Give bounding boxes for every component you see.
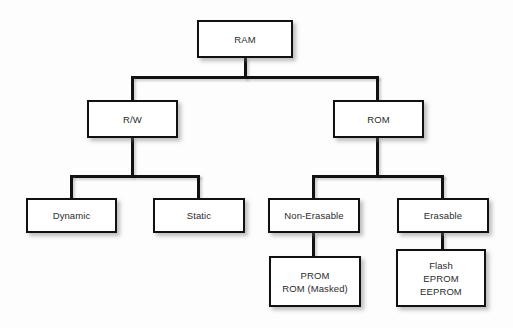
node-label-rom: ROM	[367, 113, 389, 126]
node-dynamic[interactable]: Dynamic	[26, 198, 117, 233]
connector-rom-stem	[376, 138, 379, 177]
connector-rw-to-sta-drop	[197, 175, 200, 199]
connector-rw-to-dyn-drop	[70, 175, 73, 199]
node-label-erasable: Erasable	[424, 209, 462, 222]
connector-ram-to-rw-drop	[131, 76, 134, 101]
node-rom[interactable]: ROM	[333, 100, 424, 138]
connector-ram-to-rom-drop	[376, 76, 379, 101]
connector-rw-stem	[131, 138, 134, 177]
connector-rom-bus	[312, 175, 444, 178]
node-erasable[interactable]: Erasable	[397, 198, 489, 233]
node-non-erasable[interactable]: Non-Erasable	[268, 198, 360, 233]
node-label-flash: Flash EPROM EEPROM	[420, 259, 462, 298]
node-label-non-erasable: Non-Erasable	[284, 209, 343, 222]
node-flash[interactable]: Flash EPROM EEPROM	[396, 249, 486, 307]
connector-er-to-flash	[441, 233, 444, 250]
node-prom[interactable]: PROM ROM (Masked)	[269, 256, 361, 307]
diagram-canvas: RAMR/WROMDynamicStaticNon-ErasableErasab…	[0, 0, 513, 328]
node-label-rw: R/W	[123, 113, 142, 126]
node-label-prom: PROM ROM (Masked)	[282, 269, 348, 295]
connector-rom-to-ne-drop	[312, 175, 315, 199]
node-label-static: Static	[187, 209, 211, 222]
node-label-ram: RAM	[234, 33, 255, 46]
node-static[interactable]: Static	[153, 198, 245, 233]
connector-ram-bus	[131, 76, 379, 79]
connector-ne-to-prom	[312, 233, 315, 257]
node-label-dynamic: Dynamic	[53, 209, 91, 222]
connector-rw-bus	[70, 175, 200, 178]
connector-rom-to-er-drop	[441, 175, 444, 199]
node-rw[interactable]: R/W	[87, 100, 178, 138]
node-ram[interactable]: RAM	[197, 20, 293, 58]
